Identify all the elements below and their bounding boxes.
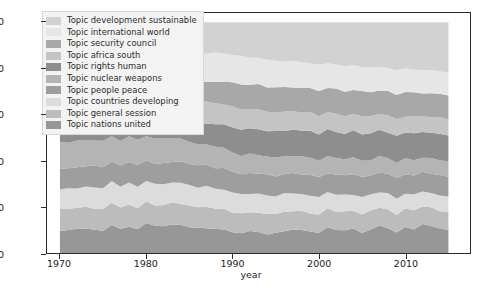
stacked-area-chart-figure: year Topic development sustainableTopic …: [0, 0, 485, 288]
x-axis-tick-label: 2000: [307, 258, 331, 269]
legend-item: Topic rights human: [46, 61, 197, 73]
legend-swatch-icon: [46, 63, 61, 71]
x-axis-tick-label: 1990: [220, 258, 244, 269]
chart-legend: Topic development sustainableTopic inter…: [42, 11, 204, 135]
legend-swatch-icon: [46, 17, 61, 25]
x-axis-tick-mark: [319, 254, 320, 259]
legend-item: Topic nations united: [46, 119, 197, 131]
y-axis-tick-mark: [41, 161, 46, 162]
y-axis-tick-mark: [41, 21, 46, 22]
y-axis-tick-label: 100: [0, 16, 4, 27]
y-axis-tick-label: 40: [0, 155, 4, 166]
x-axis-label-text: year: [240, 269, 261, 280]
legend-item-label: Topic security council: [67, 38, 156, 50]
legend-swatch-icon: [46, 52, 61, 60]
x-axis-tick-mark: [406, 254, 407, 259]
legend-item-label: Topic africa south: [67, 50, 140, 62]
x-axis-tick-label: 1980: [134, 258, 158, 269]
legend-swatch-icon: [46, 110, 61, 118]
y-axis-tick-mark: [41, 68, 46, 69]
legend-item-label: Topic rights human: [67, 61, 147, 73]
legend-item-label: Topic nations united: [67, 119, 151, 131]
legend-item-label: Topic general session: [67, 108, 156, 120]
y-axis-tick-mark: [41, 207, 46, 208]
legend-item: Topic development sustainable: [46, 15, 197, 27]
legend-swatch-icon: [46, 75, 61, 83]
legend-swatch-icon: [46, 28, 61, 36]
x-axis-tick-mark: [146, 254, 147, 259]
x-axis-tick-mark: [232, 254, 233, 259]
legend-swatch-icon: [46, 121, 61, 129]
x-axis-tick-label: 2010: [394, 258, 418, 269]
x-axis-tick-mark: [59, 254, 60, 259]
y-axis-tick-label: 20: [0, 202, 4, 213]
y-axis-tick-mark: [41, 114, 46, 115]
x-axis-label: year: [0, 269, 485, 280]
legend-item: Topic international world: [46, 27, 197, 39]
legend-item: Topic africa south: [46, 50, 197, 62]
y-axis-tick-mark: [41, 254, 46, 255]
legend-swatch-icon: [46, 86, 61, 94]
legend-item-label: Topic development sustainable: [67, 15, 197, 27]
x-axis-tick-label: 1970: [47, 258, 71, 269]
legend-item-label: Topic international world: [67, 27, 170, 39]
legend-item: Topic countries developing: [46, 96, 197, 108]
legend-item: Topic general session: [46, 108, 197, 120]
legend-item: Topic security council: [46, 38, 197, 50]
legend-swatch-icon: [46, 40, 61, 48]
legend-swatch-icon: [46, 98, 61, 106]
y-axis-tick-label: 80: [0, 62, 4, 73]
legend-item-label: Topic countries developing: [67, 96, 179, 108]
legend-item: Topic nuclear weapons: [46, 73, 197, 85]
y-axis-tick-label: 0: [0, 249, 4, 260]
y-axis-tick-label: 60: [0, 109, 4, 120]
legend-item-label: Topic nuclear weapons: [67, 73, 162, 85]
legend-item: Topic people peace: [46, 85, 197, 97]
legend-item-label: Topic people peace: [67, 85, 147, 97]
